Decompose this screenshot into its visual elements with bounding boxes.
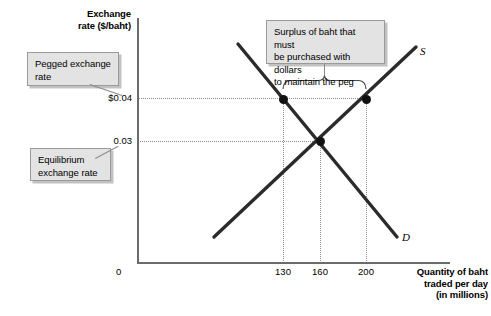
- y-axis-title-line2: rate ($/baht): [18, 20, 131, 32]
- callout-pegged-exchange-rate: Pegged exchange rate: [27, 52, 119, 86]
- x-tick-label-160: 160: [300, 267, 340, 277]
- leader-line-surplus: [324, 64, 325, 76]
- point-quantity-supplied-at-peg: [362, 95, 371, 104]
- callout-surplus-line1: Surplus of baht that must: [274, 26, 377, 51]
- demand-curve-label: D: [402, 231, 410, 243]
- y-axis-title: Exchange rate ($/baht): [18, 8, 131, 31]
- callout-pegged-line2: rate: [35, 71, 111, 84]
- x-axis-title-line1: Quantity of baht: [392, 266, 488, 278]
- y-axis-title-line1: Exchange: [18, 8, 131, 20]
- callout-surplus-line3: to maintain the peg: [274, 76, 377, 89]
- origin-label: 0: [116, 267, 121, 277]
- callout-surplus-line2: be purchased with dollars: [274, 51, 377, 76]
- point-quantity-demanded-at-peg: [279, 95, 288, 104]
- x-tick-label-130: 130: [263, 267, 303, 277]
- callout-equilibrium-line2: exchange rate: [38, 167, 103, 180]
- y-tick-label-004: $0.04: [72, 93, 132, 103]
- point-equilibrium: [316, 137, 325, 146]
- callout-surplus-of-baht: Surplus of baht that must be purchased w…: [266, 20, 385, 64]
- supply-curve-label: S: [420, 45, 426, 57]
- exchange-rate-peg-diagram: S D Exchange rate ($/baht) Quantity of b…: [0, 0, 491, 316]
- y-tick-label-003: 0.03: [72, 136, 132, 146]
- x-tick-label-200: 200: [346, 267, 386, 277]
- callout-equilibrium-line1: Equilibrium: [38, 154, 103, 167]
- callout-pegged-line1: Pegged exchange: [35, 58, 111, 71]
- x-axis-title-line2: traded per day: [392, 278, 488, 290]
- x-axis-title-line3: (in millions): [392, 289, 488, 301]
- callout-equilibrium-exchange-rate: Equilibrium exchange rate: [30, 148, 111, 181]
- x-axis-title: Quantity of baht traded per day (in mill…: [392, 266, 488, 301]
